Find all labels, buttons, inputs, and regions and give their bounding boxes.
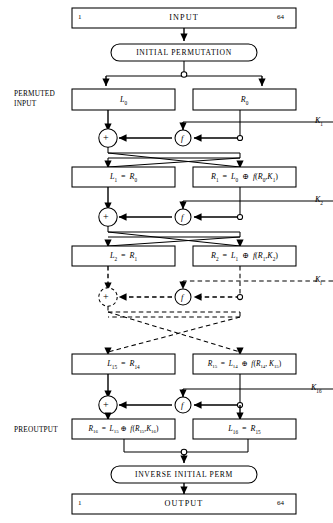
register-text-r1: R1 = L0 ⊕ f(R0,K1) <box>193 172 296 183</box>
f-symbol-omitted: f <box>181 292 184 302</box>
f-symbol-round16: f <box>181 400 184 410</box>
xor-symbol-omitted: + <box>103 291 109 302</box>
register-text-r15: R15 = L14 ⊕ f(R14, K15) <box>193 359 296 369</box>
key-label-2: K2 <box>315 195 323 206</box>
input-bit-last: 64 <box>277 13 284 21</box>
merge-node-bottom <box>181 449 187 455</box>
tap-node-omitted <box>237 294 242 299</box>
output-label: OUTPUT <box>72 499 296 508</box>
tap-node-round2 <box>237 214 242 219</box>
f-symbol-round1: f <box>181 133 184 143</box>
input-label: INPUT <box>72 13 296 22</box>
register-text-r16: R16 = L15 ⊕ f(R15,K16) <box>72 424 175 434</box>
split-node-top <box>181 72 187 78</box>
register-text-l0: L0 <box>72 95 175 106</box>
permuted-input-label: PERMUTED INPUT <box>14 89 55 109</box>
initial-permutation-label: INITIAL PERMUTATION <box>111 48 257 57</box>
permuted-input-line1: PERMUTED <box>14 89 55 99</box>
inverse-permutation-label: INVERSE INITIAL PERM <box>111 470 257 479</box>
register-text-l16: L16 = R15 <box>193 424 296 435</box>
register-text-r0: R0 <box>193 95 296 106</box>
register-text-r2: R2 = L1 ⊕ f(R1,K2) <box>193 251 296 262</box>
key-label-1: K1 <box>315 116 323 127</box>
permuted-input-line2: INPUT <box>14 99 55 109</box>
register-text-l1: L1 = R0 <box>72 172 175 183</box>
omitted-rounds-group <box>108 266 333 355</box>
register-text-l2: L2 = R1 <box>72 251 175 262</box>
tap-node-round1 <box>237 135 242 140</box>
xor-symbol-round16: + <box>103 399 109 410</box>
f-symbol-round2: f <box>181 212 184 222</box>
preoutput-label: PREOUTPUT <box>14 425 58 435</box>
output-bit-last: 64 <box>277 499 284 507</box>
xor-symbol-round2: + <box>103 211 109 222</box>
key-label-i: Ki <box>315 275 322 286</box>
key-label-16: K16 <box>311 383 322 394</box>
register-text-l15: L15 = R14 <box>72 359 175 370</box>
xor-symbol-round1: + <box>103 132 109 143</box>
